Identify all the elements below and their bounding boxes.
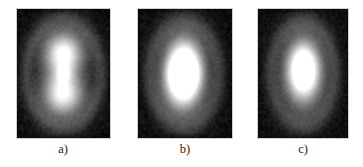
- beam-image-a: [17, 9, 110, 138]
- beam-canvas-a: [17, 9, 110, 138]
- beam-image-c: [258, 9, 348, 138]
- beam-image-b: [138, 9, 232, 138]
- panel-label-a: a): [33, 142, 93, 156]
- panel-label-b: b): [155, 142, 215, 156]
- panel-label-c: c): [273, 142, 333, 156]
- beam-canvas-b: [138, 9, 232, 138]
- figure-container: a) b) c): [0, 0, 363, 167]
- beam-canvas-c: [258, 9, 348, 138]
